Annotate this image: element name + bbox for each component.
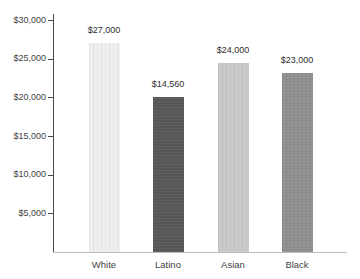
- y-tick-label: $10,000: [0, 169, 46, 180]
- category-label: Asian: [203, 259, 263, 271]
- bar-value-label: $14,560: [138, 78, 198, 90]
- bar-latino: [153, 97, 184, 252]
- y-tick-label: $30,000: [0, 15, 46, 26]
- category-label: Latino: [138, 259, 198, 271]
- y-tick-mark: [48, 136, 53, 137]
- bar-white: [89, 43, 120, 252]
- y-tick-mark: [48, 59, 53, 60]
- bar-value-label: $27,000: [74, 24, 134, 36]
- y-tick-label: $25,000: [0, 53, 46, 64]
- y-tick-label: $20,000: [0, 92, 46, 103]
- bar-chart: $30,000$25,000$20,000$15,000$10,000$5,00…: [0, 0, 360, 279]
- y-axis-line: [53, 14, 54, 252]
- bar-value-label: $24,000: [203, 44, 263, 56]
- category-label: Black: [267, 259, 327, 271]
- y-tick-label: $5,000: [0, 208, 46, 219]
- category-label: White: [74, 259, 134, 271]
- bar-asian: [218, 63, 249, 252]
- y-tick-mark: [48, 20, 53, 21]
- y-tick-label: $15,000: [0, 131, 46, 142]
- bar-black: [282, 73, 313, 252]
- y-tick-mark: [48, 175, 53, 176]
- bar-value-label: $23,000: [267, 54, 327, 66]
- x-axis-line: [53, 252, 347, 253]
- y-tick-mark: [48, 213, 53, 214]
- y-tick-mark: [48, 97, 53, 98]
